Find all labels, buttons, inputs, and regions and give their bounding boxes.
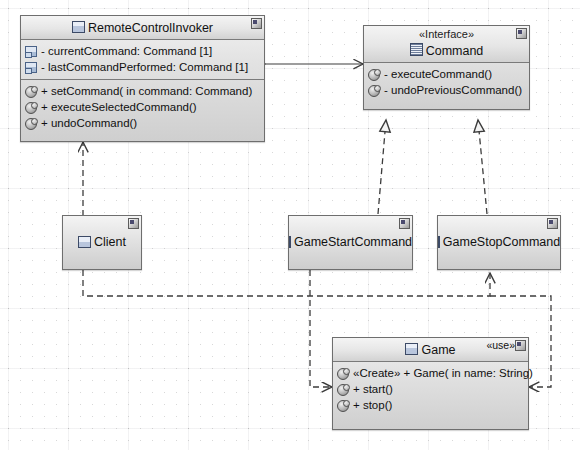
attribute-label: - currentCommand: Command [1] bbox=[41, 43, 212, 59]
class-header-game-start-command: GameStartCommand bbox=[289, 216, 412, 269]
operation-icon bbox=[337, 384, 349, 396]
operation-icon bbox=[337, 368, 349, 380]
operation-row: + stop() bbox=[337, 397, 524, 413]
class-title-remote-control-invoker: RemoteControlInvoker bbox=[88, 20, 213, 36]
operation-label: + stop() bbox=[353, 397, 392, 413]
connector-client-gamestop[interactable] bbox=[83, 270, 490, 296]
operation-icon bbox=[25, 102, 37, 114]
corner-marker-icon[interactable] bbox=[251, 18, 262, 29]
operation-icon bbox=[368, 69, 380, 81]
operation-label: + setCommand( in command: Command) bbox=[41, 83, 252, 99]
class-game-start-command[interactable]: GameStartCommand bbox=[288, 215, 413, 270]
operations-compartment-command: - executeCommand() - undoPreviousCommand… bbox=[364, 63, 529, 102]
operation-icon bbox=[25, 86, 37, 98]
operation-label: - undoPreviousCommand() bbox=[384, 82, 522, 98]
stereotype-label: «Interface» bbox=[368, 28, 525, 41]
operation-icon bbox=[368, 85, 380, 97]
operation-row: - undoPreviousCommand() bbox=[368, 82, 525, 98]
corner-marker-icon[interactable] bbox=[128, 218, 139, 229]
operation-row: + setCommand( in command: Command) bbox=[25, 83, 260, 99]
class-game[interactable]: Game «use» «Create» + Game( in name: Str… bbox=[332, 337, 529, 430]
operation-label: - executeCommand() bbox=[384, 66, 492, 82]
operation-label: + start() bbox=[353, 381, 393, 397]
class-game-stop-command[interactable]: GameStopCommand bbox=[437, 215, 561, 270]
class-icon bbox=[405, 343, 418, 355]
attribute-label: - lastCommandPerformed: Command [1] bbox=[41, 59, 248, 75]
interface-icon bbox=[410, 43, 423, 56]
class-icon bbox=[72, 21, 85, 33]
class-remote-control-invoker[interactable]: RemoteControlInvoker - currentCommand: C… bbox=[20, 15, 265, 142]
attributes-compartment-remote-control-invoker: - currentCommand: Command [1] - lastComm… bbox=[21, 40, 264, 79]
operation-label: + undoCommand() bbox=[41, 115, 137, 131]
attribute-row: - currentCommand: Command [1] bbox=[25, 43, 260, 59]
operations-compartment-game: «Create» + Game( in name: String) + star… bbox=[333, 362, 528, 417]
operation-icon bbox=[25, 118, 37, 130]
class-header-remote-control-invoker: RemoteControlInvoker bbox=[21, 16, 264, 40]
operation-icon bbox=[337, 400, 349, 412]
class-header-game-stop-command: GameStopCommand bbox=[438, 216, 560, 269]
operation-label: «Create» + Game( in name: String) bbox=[353, 365, 533, 381]
operation-label: + executeSelectedCommand() bbox=[41, 99, 197, 115]
attribute-icon bbox=[25, 62, 37, 73]
connector-gamestart-command[interactable] bbox=[378, 120, 386, 214]
class-title-command: Command bbox=[426, 43, 484, 59]
class-icon bbox=[289, 236, 291, 248]
corner-marker-icon[interactable] bbox=[547, 218, 558, 229]
class-icon bbox=[78, 236, 91, 248]
operation-row: + executeSelectedCommand() bbox=[25, 99, 260, 115]
class-header-command: «Interface» Command bbox=[364, 26, 529, 63]
attribute-row: - lastCommandPerformed: Command [1] bbox=[25, 59, 260, 75]
class-title-game: Game bbox=[421, 342, 455, 358]
class-title-client: Client bbox=[94, 234, 126, 250]
operation-row: «Create» + Game( in name: String) bbox=[337, 365, 524, 381]
use-stereotype-label: «use» bbox=[486, 339, 515, 351]
class-header-game: Game «use» bbox=[333, 338, 528, 362]
class-command[interactable]: «Interface» Command - executeCommand() -… bbox=[363, 25, 530, 110]
uml-diagram-canvas: RemoteControlInvoker - currentCommand: C… bbox=[0, 0, 580, 450]
operation-row: + start() bbox=[337, 381, 524, 397]
class-title-game-start-command: GameStartCommand bbox=[294, 234, 412, 250]
corner-marker-icon[interactable] bbox=[516, 28, 527, 39]
class-header-client: Client bbox=[63, 216, 141, 269]
corner-marker-icon[interactable] bbox=[399, 218, 410, 229]
corner-marker-icon[interactable] bbox=[515, 340, 526, 351]
operation-row: + undoCommand() bbox=[25, 115, 260, 131]
attribute-icon bbox=[25, 46, 37, 57]
connector-gamestop-command[interactable] bbox=[478, 120, 487, 214]
class-client[interactable]: Client bbox=[62, 215, 142, 270]
connector-gamestart-game[interactable] bbox=[310, 270, 332, 387]
operation-row: - executeCommand() bbox=[368, 66, 525, 82]
class-title-game-stop-command: GameStopCommand bbox=[443, 234, 560, 250]
class-icon bbox=[438, 236, 440, 248]
operations-compartment-remote-control-invoker: + setCommand( in command: Command) + exe… bbox=[21, 79, 264, 135]
